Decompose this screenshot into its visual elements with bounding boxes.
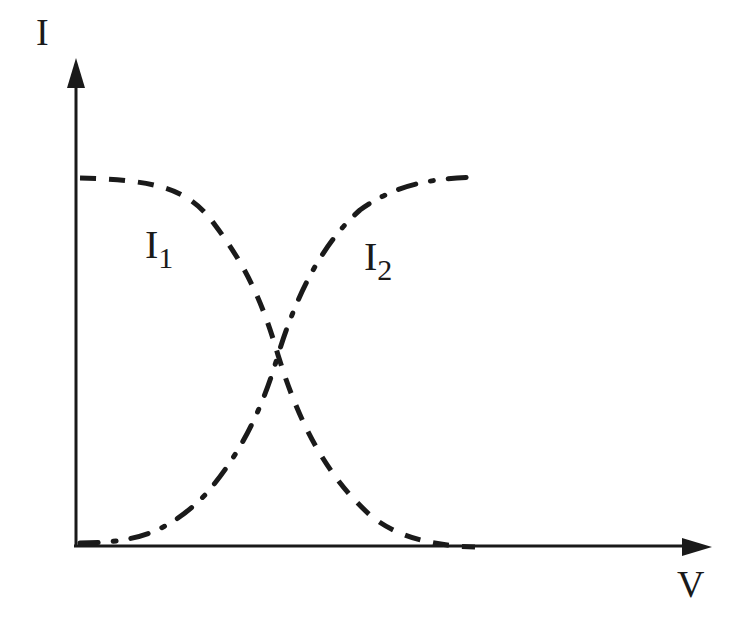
x-axis-arrow-icon [682, 538, 712, 556]
curve-i1-label: I1 [145, 222, 173, 274]
y-axis-arrow-icon [67, 58, 85, 88]
y-axis-label: I [36, 11, 49, 53]
curve-i2-label: I2 [364, 234, 392, 286]
x-axis-label: V [677, 563, 705, 605]
iv-diagram: I V I1 I2 [0, 0, 747, 624]
